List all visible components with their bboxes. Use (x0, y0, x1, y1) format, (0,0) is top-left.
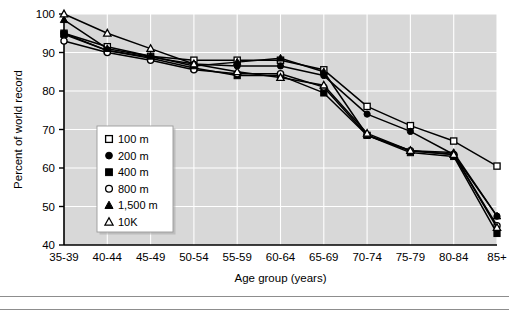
data-point-legend-open-circle (106, 185, 113, 192)
x-tick-label: 35-39 (49, 251, 78, 263)
y-axis-title: Percent of world record (12, 70, 24, 189)
x-tick-label: 55-59 (222, 251, 251, 263)
legend-item-label: 10K (118, 216, 138, 228)
data-point-filled-square (61, 31, 67, 37)
x-tick-label: 50-54 (179, 251, 209, 263)
x-tick-label: 65-69 (309, 251, 338, 263)
data-point-filled-circle (364, 111, 370, 117)
x-tick-label: 80-84 (439, 251, 469, 263)
x-tick-label: 75-79 (396, 251, 425, 263)
data-point-open-square (451, 138, 457, 144)
data-point-open-square (407, 123, 413, 129)
x-axis-title: Age group (years) (234, 272, 326, 284)
chart-legend[interactable]: 100 m200 m400 m800 m1,500 m10K (97, 126, 176, 235)
y-tick-label: 100 (36, 8, 55, 20)
data-point-open-circle (61, 38, 67, 44)
y-tick-label: 40 (42, 239, 55, 251)
line-chart: 405060708090100 35-3940-4445-4950-5455-5… (0, 0, 509, 310)
x-tick-label: 85+ (487, 251, 507, 263)
data-point-legend-filled-square (106, 169, 113, 176)
y-tick-label: 70 (42, 124, 55, 136)
y-tick-label: 90 (42, 47, 55, 59)
legend-item-label: 1,500 m (118, 199, 158, 211)
legend-item-label: 200 m (118, 150, 149, 162)
data-point-open-square (364, 103, 370, 109)
y-tick-label: 80 (42, 85, 55, 97)
data-point-open-square (494, 163, 500, 169)
legend-item-label: 400 m (118, 166, 149, 178)
chart-figure: 405060708090100 35-3940-4445-4950-5455-5… (0, 0, 509, 310)
legend-item-label: 800 m (118, 183, 149, 195)
data-point-filled-circle (407, 128, 413, 134)
y-tick-label: 50 (42, 201, 55, 213)
x-tick-label: 60-64 (266, 251, 296, 263)
data-point-legend-open-square (106, 136, 113, 143)
legend-item-label: 100 m (118, 133, 149, 145)
data-point-filled-square (494, 230, 500, 236)
x-tick-label: 70-74 (352, 251, 382, 263)
x-axis-ticks: 35-3940-4445-4950-5455-5960-6465-6970-74… (49, 251, 507, 263)
x-tick-label: 45-49 (136, 251, 165, 263)
data-point-filled-circle (277, 63, 283, 69)
data-point-legend-filled-circle (106, 152, 113, 159)
y-tick-label: 60 (42, 162, 55, 174)
x-tick-label: 40-44 (93, 251, 123, 263)
